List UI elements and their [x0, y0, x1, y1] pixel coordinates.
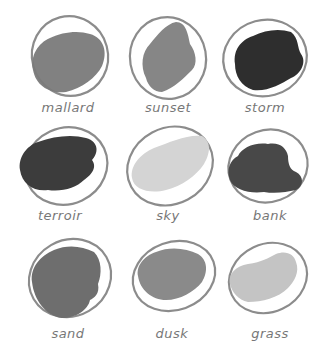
swatch-label: terroir: [10, 208, 110, 223]
swatch-terroir: terroir: [10, 120, 110, 235]
swatch-dusk: dusk: [122, 234, 222, 349]
swatch-label: mallard: [18, 100, 118, 115]
swatch-mallard: mallard: [18, 8, 118, 123]
swatch-label: storm: [215, 100, 315, 115]
swatch-label: dusk: [122, 326, 222, 341]
watercolor-blob-icon: [118, 8, 218, 103]
watercolor-blob-icon: [18, 234, 118, 329]
watercolor-blob-icon: [10, 120, 110, 215]
swatch-label: bank: [220, 208, 320, 223]
watercolor-blob-icon: [215, 8, 315, 103]
watercolor-blob-icon: [122, 234, 222, 329]
watercolor-blob-icon: [220, 234, 320, 329]
watercolor-blob-icon: [118, 120, 218, 215]
swatch-label: grass: [220, 326, 320, 341]
watercolor-blob-icon: [220, 120, 320, 215]
swatch-grid: mallard sunset storm terroir sky: [0, 0, 328, 354]
swatch-label: sky: [118, 208, 218, 223]
swatch-label: sand: [18, 326, 118, 341]
swatch-bank: bank: [220, 120, 320, 235]
swatch-sky: sky: [118, 120, 218, 235]
swatch-sunset: sunset: [118, 8, 218, 123]
swatch-label: sunset: [118, 100, 218, 115]
watercolor-blob-icon: [18, 8, 118, 103]
swatch-sand: sand: [18, 234, 118, 349]
swatch-storm: storm: [215, 8, 315, 123]
swatch-grass: grass: [220, 234, 320, 349]
